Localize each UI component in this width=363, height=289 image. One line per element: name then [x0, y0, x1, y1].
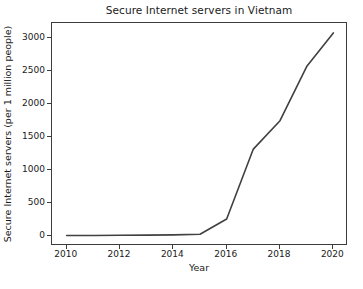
y-axis-tick-label: 0	[39, 230, 45, 240]
y-axis-tick-mark	[47, 37, 51, 38]
x-axis-tick-label: 2010	[54, 249, 77, 259]
x-axis-label: Year	[51, 262, 347, 273]
x-axis-tick-mark	[172, 245, 173, 249]
x-axis-tick-mark	[279, 245, 280, 249]
x-axis-tick-label: 2016	[214, 249, 237, 259]
y-axis-tick-labels: 050010001500200025003000	[0, 22, 45, 245]
x-axis-tick-mark	[119, 245, 120, 249]
y-axis-tick-mark	[47, 70, 51, 71]
data-line-svg	[52, 23, 348, 246]
y-axis-tick-mark	[47, 136, 51, 137]
y-axis-tick-label: 1500	[22, 131, 45, 141]
plot-area	[51, 22, 347, 245]
x-axis-tick-label: 2018	[268, 249, 291, 259]
y-axis-tick-mark	[47, 103, 51, 104]
y-axis-tick-label: 3000	[22, 32, 45, 42]
data-series-line	[67, 33, 334, 236]
y-axis-tick-mark	[47, 202, 51, 203]
x-axis-tick-mark	[226, 245, 227, 249]
x-axis-tick-labels: 201020122014201620182020	[0, 245, 363, 263]
y-axis-tick-mark	[47, 235, 51, 236]
y-axis-tick-label: 2000	[22, 98, 45, 108]
x-axis-tick-label: 2012	[108, 249, 131, 259]
x-axis-tick-label: 2020	[321, 249, 344, 259]
x-axis-tick-mark	[66, 245, 67, 249]
x-axis-tick-label: 2014	[161, 249, 184, 259]
y-axis-tick-label: 1000	[22, 164, 45, 174]
chart-title: Secure Internet servers in Vietnam	[51, 4, 347, 16]
y-axis-tick-label: 500	[28, 197, 45, 207]
chart-figure: Secure Internet servers in Vietnam Secur…	[0, 0, 363, 289]
x-axis-tick-mark	[332, 245, 333, 249]
y-axis-tick-mark	[47, 169, 51, 170]
y-axis-tick-label: 2500	[22, 65, 45, 75]
